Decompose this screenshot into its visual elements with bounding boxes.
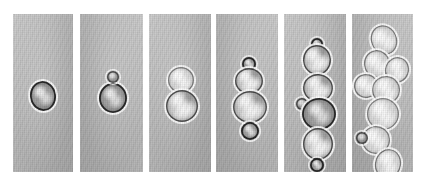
cell-wall-rim — [310, 158, 324, 172]
cell-mother-cell — [28, 79, 58, 112]
cell-small-bud — [107, 71, 119, 83]
cell-bud-bottom — [241, 122, 259, 140]
panel-1 — [13, 14, 73, 172]
panel-4 — [216, 14, 278, 172]
cell-wall-rim — [99, 83, 127, 113]
panel-6 — [352, 14, 413, 172]
panel-3 — [149, 14, 211, 172]
panel-2 — [80, 14, 143, 172]
cell-cell-lower — [233, 91, 267, 123]
cell-mother-cell — [166, 90, 198, 122]
micrograph-figure — [0, 0, 423, 189]
panel-5 — [284, 14, 346, 172]
cell-side-bud — [356, 132, 368, 144]
cell-mother-cell — [99, 83, 127, 113]
cell-wall-rim — [233, 91, 267, 123]
cell-wall-rim — [166, 90, 198, 122]
cell-wall-rim — [356, 132, 368, 144]
cell-wall-rim — [107, 71, 119, 83]
cell-wall-rim — [241, 122, 259, 140]
cell-bud-bottom — [310, 158, 324, 172]
